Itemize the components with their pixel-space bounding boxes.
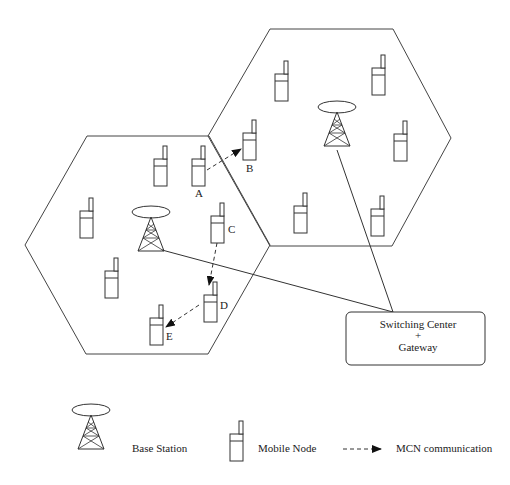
mobile-node-a-icon [192,146,205,186]
switching-center-label-plus: + [415,329,421,341]
left-base-station-tower-icon [132,206,170,251]
mobile-node-d-icon [204,282,217,322]
right-base-station-tower-icon [318,101,356,146]
mcn-link-d-to-e [166,305,199,327]
mobile-node-icon [154,146,167,186]
switching-center-label-line3: Gateway [398,341,438,353]
legend-base-station-tower-icon [72,404,110,449]
mobile-node-icon [394,121,407,161]
mcn-link-a-to-b [207,149,241,170]
legend-mobile-node-label: Mobile Node [258,442,316,454]
legend: Base Station Mobile Node MCN communicati… [72,404,493,461]
mobile-node-icon [80,198,93,238]
legend-mcn-communication-label: MCN communication [396,442,493,454]
node-label-e: E [166,330,173,342]
mobile-node-icon [294,193,307,233]
node-label-b: B [246,162,253,174]
legend-mobile-node-icon [230,421,243,461]
node-label-d: D [220,299,228,311]
switching-center-gateway: Switching Center + Gateway [346,312,485,365]
legend-base-station-label: Base Station [132,442,188,454]
mobile-node-icon [372,55,385,95]
node-label-c: C [228,223,235,235]
mobile-node-b-icon [243,120,256,160]
node-label-a: A [195,187,203,199]
mobile-node-c-icon [211,203,224,243]
mobile-node-e-icon [150,305,163,345]
mobile-node-icon [105,258,118,298]
mobile-node-icon [371,196,384,236]
right-tower-to-switching-center-line [337,150,393,312]
cellular-network-diagram: A B C D E Switching Center + Gateway Bas… [0,0,510,485]
mobile-node-icon [275,61,288,101]
left-tower-to-switching-center-line [162,250,393,312]
